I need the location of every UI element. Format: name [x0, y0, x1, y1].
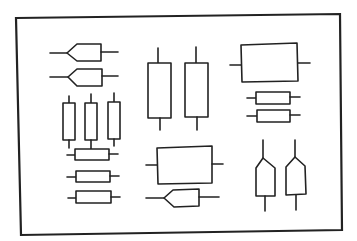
pentagon-up-2: [286, 140, 306, 210]
box-body: [185, 63, 208, 117]
box-body: [157, 146, 212, 184]
resistor-vertical-2: [85, 94, 97, 149]
tall-box-1: [148, 48, 171, 130]
box-body: [148, 63, 171, 118]
resistor-horizontal-2: [67, 171, 119, 182]
small-resistor-right-1: [247, 92, 300, 104]
resistor-body: [85, 103, 97, 140]
pentagon-body: [256, 158, 275, 196]
component-diagram: [0, 0, 357, 241]
resistor-body: [63, 103, 75, 140]
pentagon-left-2: [50, 69, 118, 86]
pentagon-body: [68, 69, 102, 86]
pentagon-body: [286, 157, 306, 195]
pentagon-left-3: [146, 189, 219, 207]
pentagon-body: [67, 44, 101, 61]
resistor-vertical-3: [108, 93, 120, 146]
resistor-body: [257, 110, 290, 122]
resistor-body: [75, 149, 109, 160]
tall-box-2: [185, 47, 208, 130]
resistor-vertical-1: [63, 96, 75, 148]
resistor-body: [108, 102, 120, 139]
small-resistor-right-2: [247, 110, 300, 122]
large-box-center-bottom: [146, 146, 223, 184]
resistor-body: [76, 171, 110, 182]
resistor-body: [256, 92, 290, 104]
resistor-body: [76, 191, 111, 203]
large-box-top-right: [230, 43, 310, 82]
pentagon-left-1: [50, 44, 118, 61]
box-body: [241, 43, 298, 82]
resistor-horizontal-1: [67, 149, 118, 160]
pentagon-up-1: [256, 140, 275, 211]
pentagon-body: [164, 189, 199, 207]
resistor-horizontal-3: [68, 191, 120, 203]
